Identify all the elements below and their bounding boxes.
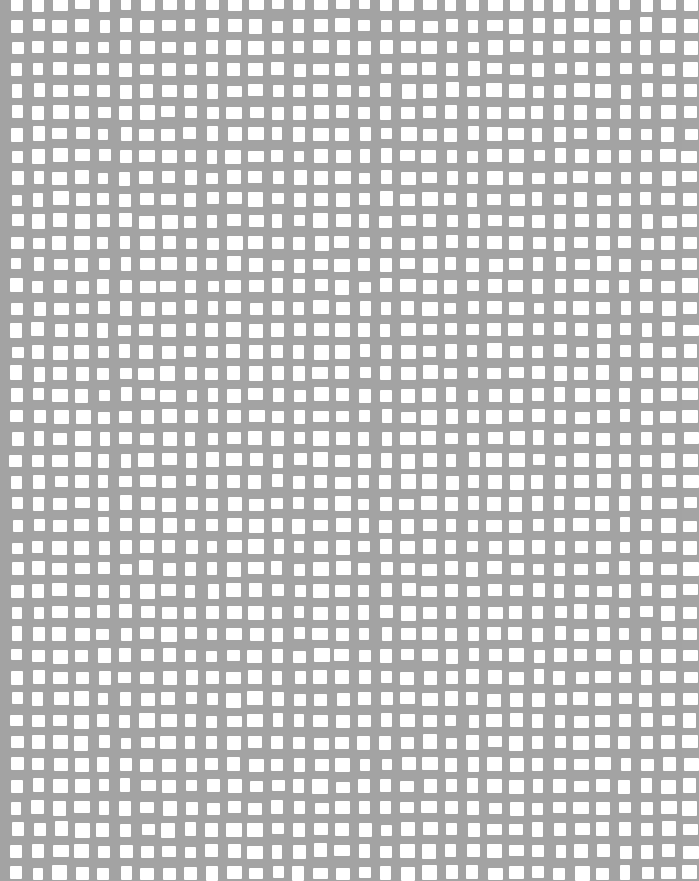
grid-hole [554,563,565,576]
grid-hole [272,41,284,54]
grid-hole [313,259,328,270]
grid-hole [185,650,196,662]
grid-hole [119,106,132,120]
grid-hole [641,845,653,859]
grid-hole [358,258,370,271]
grid-hole [445,715,456,726]
grid-hole [99,541,110,555]
grid-hole [120,18,132,32]
grid-hole [53,520,67,532]
grid-hole [119,604,132,618]
grid-hole [358,454,371,468]
grid-hole [75,758,89,772]
grid-hole [358,323,370,337]
grid-hole [381,671,392,683]
grid-hole [120,845,133,858]
grid-hole [272,193,284,204]
grid-hole [75,214,90,229]
grid-hole [207,803,220,815]
grid-hole [53,85,68,97]
grid-hole [313,213,328,228]
grid-hole [359,410,370,422]
grid-hole [642,323,652,337]
grid-hole [98,42,109,53]
grid-hole [120,495,132,510]
grid-hole [162,63,176,76]
grid-hole [75,823,90,838]
grid-hole [487,627,501,640]
grid-hole [208,388,218,402]
grid-hole [227,475,240,488]
grid-hole [509,824,523,835]
grid-hole [510,64,524,75]
grid-hole [358,432,369,446]
grid-hole [11,63,22,76]
grid-hole [400,258,415,269]
grid-hole [313,431,329,446]
grid-hole [401,323,416,336]
grid-hole [400,714,415,727]
grid-hole [621,301,631,315]
grid-hole [380,497,392,511]
grid-hole [445,105,457,119]
grid-hole [661,453,675,468]
grid-hole [186,758,197,772]
grid-hole [381,825,392,836]
grid-hole [555,148,566,163]
grid-hole [272,474,283,487]
grid-hole [186,802,198,815]
grid-hole [467,586,480,597]
grid-hole [380,801,391,814]
grid-hole [249,499,264,511]
grid-hole [120,85,132,99]
grid-hole [401,649,414,660]
grid-hole [99,801,109,815]
grid-hole [120,824,131,837]
grid-hole [621,474,631,489]
grid-hole [33,778,44,792]
grid-hole [469,452,480,467]
grid-hole [662,84,676,97]
grid-hole [249,519,264,533]
grid-hole [33,627,45,641]
grid-hole [575,323,588,336]
grid-hole [227,192,242,204]
grid-hole [682,171,697,182]
grid-hole [359,801,370,814]
grid-hole [381,148,392,163]
grid-hole [292,866,304,881]
grid-hole [162,846,176,857]
grid-hole [32,281,43,293]
grid-hole [641,129,652,140]
grid-hole [423,106,436,118]
grid-hole [574,844,588,858]
grid-hole [53,0,68,11]
grid-hole [163,868,176,880]
grid-hole [250,303,263,315]
grid-hole [249,280,264,292]
grid-hole [12,497,23,509]
grid-hole [639,693,652,707]
grid-hole [293,651,306,663]
grid-hole [120,280,132,293]
grid-hole [185,0,195,10]
grid-hole [661,649,676,663]
grid-hole [100,432,110,446]
grid-hole [421,410,437,425]
grid-hole [119,213,132,227]
grid-hole [595,671,611,683]
grid-hole [271,62,284,75]
grid-hole [487,368,501,379]
grid-hole [32,715,45,727]
grid-hole [53,346,68,360]
grid-hole [554,214,566,229]
grid-hole [359,867,371,878]
grid-hole [205,823,218,837]
grid-hole [11,237,24,249]
grid-hole [468,42,479,53]
grid-hole [445,691,458,706]
grid-hole [11,20,23,33]
grid-hole [74,541,89,555]
grid-hole [76,672,89,684]
grid-hole [532,540,545,554]
